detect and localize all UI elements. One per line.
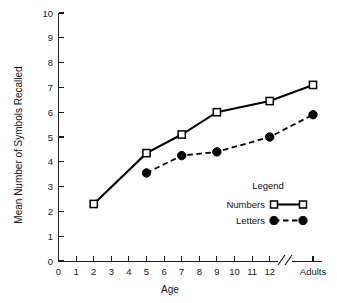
y-tick-label: 4 — [48, 156, 53, 167]
legend-marker-open-square-right — [300, 201, 307, 208]
data-point-open-square — [213, 109, 220, 116]
data-point-filled-circle — [309, 110, 317, 118]
x-tick-label: 0 — [56, 266, 61, 277]
x-tick-label: 3 — [109, 266, 114, 277]
legend-label-letters: Letters — [236, 215, 265, 226]
y-tick-label: 3 — [48, 181, 53, 192]
data-point-open-square — [178, 131, 185, 138]
x-tick-label: 8 — [197, 266, 202, 277]
legend-marker-open-square-left — [271, 201, 278, 208]
x-tick-label-adults: Adults — [300, 266, 327, 277]
y-tick-label: 0 — [48, 256, 53, 267]
y-tick-label: 9 — [48, 32, 53, 43]
x-tick-label: 6 — [161, 266, 166, 277]
legend-marker-filled-circle-left — [270, 216, 278, 224]
x-axis-title: Age — [161, 284, 179, 295]
y-tick-label: 7 — [48, 82, 53, 93]
x-tick-label: 10 — [229, 266, 240, 277]
data-point-filled-circle — [178, 151, 186, 159]
data-point-open-square — [266, 97, 273, 104]
data-point-open-square — [309, 81, 316, 88]
y-tick-label: 10 — [42, 8, 53, 19]
x-tick-label: 2 — [91, 266, 96, 277]
y-axis-title: Mean Number of Symbols Recalled — [13, 66, 24, 223]
data-point-filled-circle — [142, 169, 150, 177]
data-point-filled-circle — [266, 133, 274, 141]
x-tick-label: 5 — [144, 266, 149, 277]
legend-title: Legend — [252, 180, 284, 191]
x-tick-label: 7 — [179, 266, 184, 277]
data-point-open-square — [90, 200, 97, 207]
x-tick-label: 9 — [214, 266, 219, 277]
chart-figure: Mean Number of Symbols Recalled — [0, 0, 337, 303]
x-tick-label: 11 — [247, 266, 257, 277]
y-tick-label: 8 — [48, 57, 53, 68]
y-tick-label: 6 — [48, 107, 53, 118]
data-point-filled-circle — [213, 148, 221, 156]
y-tick-label: 2 — [48, 206, 53, 217]
legend-marker-filled-circle-right — [299, 216, 307, 224]
data-point-open-square — [143, 150, 150, 157]
y-tick-label: 5 — [48, 132, 53, 143]
x-tick-label: 4 — [126, 266, 131, 277]
legend-label-numbers: Numbers — [226, 199, 265, 210]
x-tick-label: 12 — [264, 266, 275, 277]
x-tick-label: 1 — [73, 266, 78, 277]
y-tick-label: 1 — [48, 231, 53, 242]
line-chart-svg: Mean Number of Symbols Recalled — [0, 0, 337, 303]
